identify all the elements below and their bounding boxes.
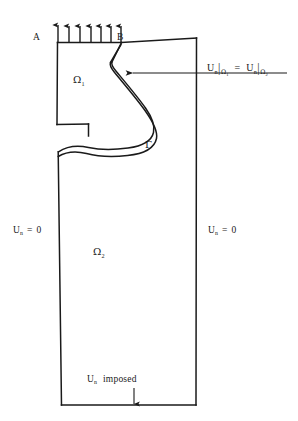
omega1-subscript: 1: [82, 80, 85, 87]
boundary-condition-left: Un=0: [13, 226, 42, 237]
bc-bottom-text: imposed: [103, 374, 137, 384]
domain-label-omega1: Ω1: [73, 75, 85, 87]
bc-left-variable: U: [13, 225, 20, 235]
gamma-outer-curve: [58, 45, 157, 157]
bc-right-value: 0: [232, 225, 237, 235]
omega1-symbol: Ω: [73, 74, 82, 85]
figure-canvas: A B Ω1 Ω2 Γ Un=0 Un=0 Unimposed Un|Ω1=Un…: [0, 0, 298, 421]
interface-gamma-curves: [58, 43, 157, 157]
top-flux-arrows: [58, 25, 121, 42]
bc-right-relation: =: [222, 225, 228, 235]
domain-label-omega2: Ω2: [93, 247, 105, 259]
edge-omega2-right: [196, 38, 197, 405]
eq-right-restriction-subscript: 2: [265, 72, 267, 77]
omega2-outer-boundary: [58, 38, 196, 405]
omega2-subscript: 2: [102, 252, 105, 259]
edge-B-to-top-right-corner: [122, 38, 197, 43]
bc-right-variable: U: [208, 225, 215, 235]
gamma-inner-curve: [59, 43, 154, 152]
bc-left-relation: =: [27, 225, 33, 235]
point-label-A: A: [33, 33, 40, 43]
eq-relation: =: [234, 62, 240, 73]
eq-left-restriction-subscript: 1: [226, 72, 228, 77]
edge-omega1-left: [57, 43, 58, 125]
bc-bottom-variable: U: [87, 374, 94, 384]
bc-left-subscript: n: [20, 230, 23, 236]
interface-continuity-equation: Un|Ω1=Un|Ω2: [207, 63, 268, 77]
boundary-condition-right: Un=0: [208, 226, 237, 237]
omega1-outer-boundary: [57, 43, 122, 137]
bc-left-value: 0: [37, 225, 42, 235]
gamma-kink-at-B: [111, 62, 113, 63]
omega2-symbol: Ω: [93, 246, 102, 257]
point-label-B: B: [117, 33, 124, 43]
boundary-condition-bottom: Unimposed: [87, 375, 137, 386]
eq-right-variable: U: [246, 62, 253, 73]
bc-bottom-subscript: n: [94, 379, 97, 385]
interface-label-gamma: Γ: [145, 140, 152, 150]
edge-omega2-left: [58, 152, 61, 405]
bc-right-subscript: n: [215, 230, 218, 236]
edge-omega1-notch-horizontal: [57, 124, 89, 125]
omega-top-right-boundary: [122, 38, 197, 43]
